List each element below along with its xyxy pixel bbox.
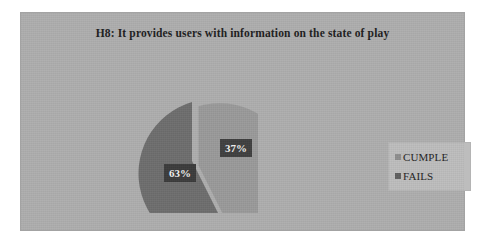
chart-legend: CUMPLE FAILS [389, 143, 470, 190]
chart-panel: H8: It provides users with information o… [21, 13, 464, 230]
legend-swatch-icon-fails [395, 173, 401, 179]
legend-label-fails: FAILS [403, 170, 433, 182]
legend-item-fails[interactable]: FAILS [395, 170, 433, 182]
pie-chart: 37% 63% [133, 83, 258, 213]
legend-swatch-icon-cumple [395, 154, 401, 160]
legend-label-cumple: CUMPLE [403, 151, 448, 163]
chart-screenshot: H8: It provides users with information o… [0, 0, 479, 247]
pie-label-cumple: 37% [220, 139, 252, 157]
legend-item-cumple[interactable]: CUMPLE [395, 151, 448, 163]
chart-title: H8: It provides users with information o… [21, 26, 464, 40]
pie-label-fails: 63% [164, 164, 196, 182]
